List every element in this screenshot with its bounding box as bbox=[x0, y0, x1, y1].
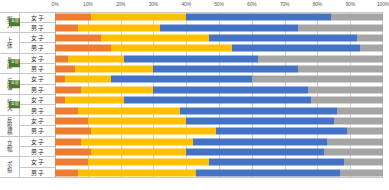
bar-segment-4 bbox=[298, 24, 383, 31]
bar-row bbox=[55, 147, 383, 157]
sex-label-column: 女子男子 bbox=[20, 54, 55, 74]
sex-label-column: 女子男子 bbox=[20, 157, 55, 177]
bar-segment-3 bbox=[193, 138, 327, 145]
bar-segment-3 bbox=[196, 169, 340, 176]
stacked-bar bbox=[55, 159, 383, 166]
bar-segment-4 bbox=[331, 14, 383, 21]
x-axis-tick: 80% bbox=[313, 1, 322, 7]
bar-segment-1 bbox=[55, 159, 88, 166]
bar-segment-2 bbox=[81, 86, 153, 93]
bar-segment-4 bbox=[360, 45, 383, 52]
bar-segment-3 bbox=[124, 97, 311, 104]
category-group: 反復横女子男子 bbox=[0, 116, 55, 137]
sex-label: 女子 bbox=[20, 116, 55, 126]
bar-segment-1 bbox=[55, 117, 88, 124]
stacked-bar bbox=[55, 86, 383, 93]
bar-segment-2 bbox=[88, 117, 186, 124]
bar-segment-2 bbox=[65, 76, 111, 83]
bar-segment-1 bbox=[55, 169, 78, 176]
bar-row bbox=[55, 126, 383, 136]
bar-row bbox=[55, 157, 383, 167]
national-badge: 全国 bbox=[9, 19, 20, 27]
sex-label-column: 女子男子 bbox=[20, 116, 55, 136]
category-group: ボ投女子男子 bbox=[0, 157, 55, 178]
bar-segment-4 bbox=[252, 76, 383, 83]
sex-label-column: 女子男子 bbox=[20, 74, 55, 94]
bar-segment-2 bbox=[78, 169, 196, 176]
bar-segment-2 bbox=[78, 24, 160, 31]
bar-segment-1 bbox=[55, 76, 65, 83]
bar-segment-3 bbox=[186, 14, 330, 21]
stacked-bar bbox=[55, 34, 383, 41]
bar-segment-1 bbox=[55, 107, 78, 114]
sex-label: 男子 bbox=[20, 23, 55, 32]
bar-segment-2 bbox=[91, 14, 186, 21]
x-axis-tick: 40% bbox=[181, 1, 190, 7]
bar-row bbox=[55, 137, 383, 147]
x-axis-tick: 50% bbox=[214, 1, 223, 7]
sex-label-column: 女子男子 bbox=[20, 13, 55, 32]
bar-segment-3 bbox=[186, 117, 334, 124]
x-axis: 0%10%20%30%40%50%60%70%80%90%100% bbox=[0, 0, 386, 12]
bar-row bbox=[55, 64, 383, 74]
category-group: 上体女子男子 bbox=[0, 33, 55, 54]
bar-segment-3 bbox=[232, 45, 360, 52]
stacked-bar bbox=[55, 97, 383, 104]
stacked-bar bbox=[55, 117, 383, 124]
sex-label-column: 女子男子 bbox=[20, 95, 55, 115]
x-axis-tick: 70% bbox=[280, 1, 289, 7]
bar-row bbox=[55, 22, 383, 32]
category-group-label-text: 上体 bbox=[7, 37, 13, 49]
bar-segment-2 bbox=[75, 66, 154, 73]
bar-segment-4 bbox=[258, 55, 383, 62]
bar-segment-2 bbox=[88, 159, 209, 166]
sex-label-column: 女子男子 bbox=[20, 33, 55, 53]
bar-segment-4 bbox=[298, 66, 383, 73]
sex-label: 男子 bbox=[20, 43, 55, 52]
bar-segment-1 bbox=[55, 97, 65, 104]
bar-segment-3 bbox=[111, 76, 252, 83]
stacked-bar bbox=[55, 169, 383, 176]
bar-segment-4 bbox=[311, 97, 383, 104]
category-group-label-text: 反復横 bbox=[7, 117, 13, 135]
sex-label: 女子 bbox=[20, 157, 55, 167]
category-group-label-text: ボ投 bbox=[7, 161, 13, 173]
stacked-bar bbox=[55, 14, 383, 21]
stacked-bar bbox=[55, 149, 383, 156]
sex-label: 女子 bbox=[20, 137, 55, 147]
bar-segment-2 bbox=[68, 55, 124, 62]
bar-segment-2 bbox=[101, 34, 209, 41]
stacked-bar bbox=[55, 128, 383, 135]
sex-label: 男子 bbox=[20, 126, 55, 135]
national-badge: 全国 bbox=[9, 101, 20, 109]
x-axis-tick: 20% bbox=[116, 1, 125, 7]
stacked-bar bbox=[55, 76, 383, 83]
x-axis-tick: 10% bbox=[83, 1, 92, 7]
x-axis-tick: 30% bbox=[149, 1, 158, 7]
sex-label: 男子 bbox=[20, 147, 55, 156]
bar-row bbox=[55, 12, 383, 22]
bars-layer bbox=[55, 12, 383, 178]
bar-row bbox=[55, 54, 383, 64]
bar-row bbox=[55, 116, 383, 126]
bar-segment-4 bbox=[337, 107, 383, 114]
bar-row bbox=[55, 85, 383, 95]
category-group: 握力全国女子男子 bbox=[0, 12, 55, 33]
bar-segment-1 bbox=[55, 14, 91, 21]
bar-segment-4 bbox=[357, 34, 383, 41]
bar-segment-1 bbox=[55, 24, 78, 31]
category-group-label: 握力全国 bbox=[0, 13, 20, 32]
stacked-bar bbox=[55, 138, 383, 145]
bar-segment-3 bbox=[160, 24, 298, 31]
category-group-label: 持久全国 bbox=[0, 95, 20, 115]
sex-label: 女子 bbox=[20, 74, 55, 84]
bar-row bbox=[55, 168, 383, 178]
category-group: 長座全国女子男子 bbox=[0, 54, 55, 75]
category-label-column: 握力全国女子男子上体女子男子長座全国女子男子反復全国女子男子持久全国女子男子反復… bbox=[0, 12, 55, 178]
stacked-bar bbox=[55, 66, 383, 73]
category-group-label: 立幅 bbox=[0, 137, 20, 157]
bar-segment-1 bbox=[55, 128, 91, 135]
sex-label: 女子 bbox=[20, 33, 55, 43]
sex-label: 女子 bbox=[20, 13, 55, 23]
